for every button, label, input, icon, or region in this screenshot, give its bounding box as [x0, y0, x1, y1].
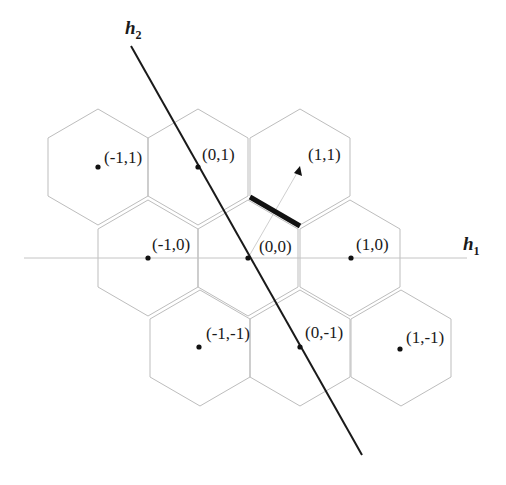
point-1-0 — [348, 255, 353, 260]
label-0-m1: (0,-1) — [305, 323, 343, 342]
label-m1-0: (-1,0) — [152, 235, 190, 254]
point-m1-m1 — [196, 344, 201, 349]
label-1-0: (1,0) — [356, 235, 389, 254]
point-m1-0 — [145, 255, 150, 260]
point-m1-1 — [95, 164, 100, 169]
label-m1-m1: (-1,-1) — [206, 324, 250, 343]
point-1-m1 — [397, 346, 402, 351]
label-1-1: (1,1) — [308, 145, 341, 164]
label-0-1: (0,1) — [202, 145, 235, 164]
label-1-m1: (1,-1) — [406, 328, 444, 347]
highlighted-edge — [250, 197, 300, 226]
label-0-0: (0,0) — [259, 237, 292, 256]
h1-axis-label: h1 — [463, 233, 480, 258]
arrowhead-icon — [294, 166, 302, 176]
h2-axis-label: h2 — [125, 17, 142, 42]
diagram-canvas: (-1,1) (0,1) (1,1) (-1,0) (0,0) (1,0) (-… — [0, 0, 506, 485]
cell-labels: (-1,1) (0,1) (1,1) (-1,0) (0,0) (1,0) (-… — [104, 145, 444, 347]
point-0-0 — [245, 255, 250, 260]
label-m1-1: (-1,1) — [104, 148, 142, 167]
point-0-m1 — [297, 344, 302, 349]
point-0-1 — [195, 164, 200, 169]
hex-lattice-figure: (-1,1) (0,1) (1,1) (-1,0) (0,0) (1,0) (-… — [0, 0, 506, 485]
